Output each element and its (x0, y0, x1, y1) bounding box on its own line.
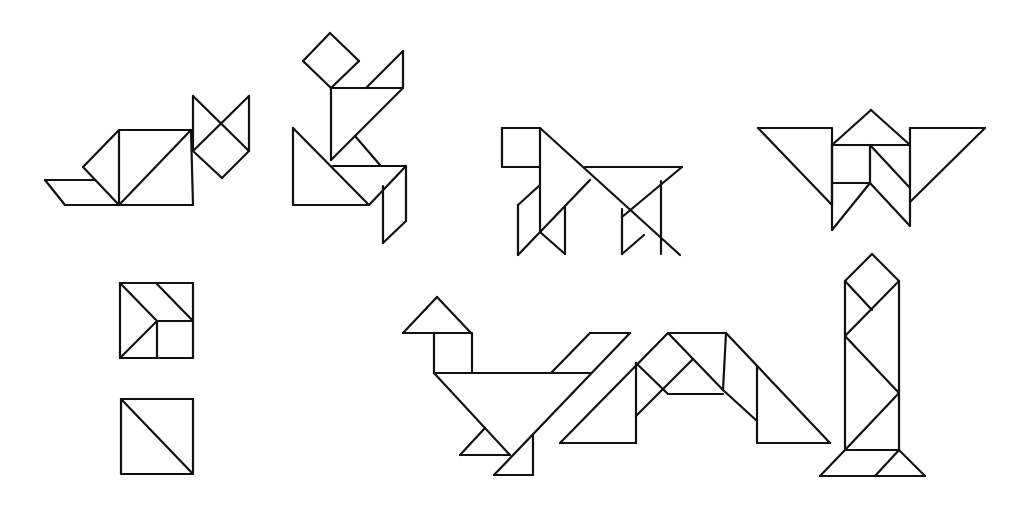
edge-line (303, 33, 330, 61)
tangram-figure-cat (45, 96, 249, 205)
edge-line (726, 333, 830, 443)
edge-line (193, 151, 222, 178)
tangram-figure-square-halves (121, 399, 193, 474)
edge-line (369, 166, 406, 205)
edge-line (622, 235, 644, 254)
tangram-figure-bridge (560, 333, 830, 443)
tangram-figure-square-dissection (120, 283, 193, 358)
tangram-figure-dog (502, 128, 682, 255)
edge-line (330, 33, 359, 61)
edge-line (872, 254, 899, 281)
edge-line (303, 61, 331, 88)
edge-line (636, 359, 693, 416)
edge-line (871, 110, 910, 145)
edge-line (383, 221, 406, 243)
edge-line (622, 167, 682, 217)
edge-line (222, 151, 249, 178)
edge-line (120, 321, 157, 358)
edge-line (845, 336, 899, 393)
edge-line (899, 450, 925, 476)
edge-line (83, 130, 119, 167)
edge-line (540, 128, 680, 255)
edge-line (845, 254, 872, 281)
tangram-sheet (0, 0, 1011, 509)
tangram-figure-butterfly (758, 110, 985, 230)
edge-line (45, 180, 65, 205)
edge-line (518, 185, 540, 205)
edge-line (870, 145, 910, 188)
tangram-drawing (0, 0, 1011, 509)
edge-line (832, 110, 871, 145)
edge-line (355, 136, 380, 165)
edge-line (551, 333, 590, 373)
edge-line (758, 128, 832, 205)
edge-line (403, 297, 437, 333)
edge-line (723, 390, 757, 421)
edge-line (83, 167, 119, 205)
edge-line (832, 183, 870, 230)
tangram-figure-tower (820, 254, 925, 476)
edge-line (845, 281, 872, 310)
edge-line (331, 61, 359, 88)
edge-line (437, 297, 471, 333)
tangram-figure-runner (293, 33, 406, 243)
edge-line (119, 130, 191, 205)
edge-line (460, 428, 485, 455)
edge-line (540, 232, 565, 254)
edge-line (366, 51, 403, 88)
edge-line (910, 128, 985, 202)
edge-line (156, 283, 193, 321)
edge-line (845, 393, 899, 450)
edge-line (494, 333, 630, 475)
edge-line (121, 399, 193, 474)
edge-line (870, 183, 910, 226)
tangram-figure-bird (403, 297, 630, 475)
edge-line (723, 333, 726, 390)
edge-line (875, 450, 899, 476)
edge-line (668, 333, 723, 390)
edge-line (820, 450, 845, 476)
edge-line (120, 283, 157, 321)
